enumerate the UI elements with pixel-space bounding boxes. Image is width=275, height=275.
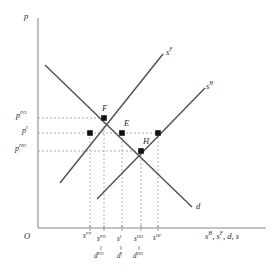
price-tick-i: pI bbox=[22, 127, 28, 135]
qty-tick-spo: sPO bbox=[97, 236, 106, 243]
price-tick-i-sup: I bbox=[26, 125, 28, 130]
x-axis-label-s3: s bbox=[236, 231, 239, 241]
price-tick-ho: pHO bbox=[15, 145, 26, 153]
origin-label: O bbox=[24, 232, 30, 241]
x-axis-label: sH, sF, d, s bbox=[205, 232, 239, 241]
point-marker-h bbox=[138, 148, 144, 154]
point-label-e: E bbox=[124, 119, 129, 128]
price-tick-po-sup: PO bbox=[20, 110, 27, 115]
qty-tick-dpo-sup: PO bbox=[98, 251, 104, 256]
point-marker-e bbox=[119, 130, 125, 136]
qty-tick-shi-sup: HI bbox=[156, 233, 161, 238]
qty-tick-sho-sup: HO bbox=[137, 234, 143, 239]
curve-label-supply-home: sH bbox=[206, 82, 213, 91]
curve-label-supply-foreign: sF bbox=[166, 48, 173, 57]
curve-label-d-base: d bbox=[196, 201, 200, 211]
qty-tick-sft-sup: FT bbox=[86, 231, 91, 236]
qty-tick-spo-sup: PO bbox=[100, 234, 106, 239]
curve-label-sh-sup: H bbox=[209, 80, 213, 86]
curve-label-demand: d bbox=[196, 202, 200, 211]
demand-curve bbox=[45, 65, 192, 207]
qty-tick-shi: sHI bbox=[153, 235, 161, 242]
qty-tick-di: dI bbox=[117, 253, 122, 260]
price-tick-po: pPO bbox=[16, 112, 27, 120]
qty-tick-dho-sup: HO bbox=[137, 251, 143, 256]
supply-curve-home bbox=[97, 88, 205, 199]
qty-tick-sft: sFT bbox=[83, 233, 91, 240]
curve-label-sf-sup: F bbox=[169, 46, 172, 52]
point-marker-f bbox=[101, 115, 107, 121]
qty-tick-dho: dHO bbox=[133, 253, 143, 260]
qty-tick-si: sI bbox=[117, 236, 121, 243]
point-label-f: F bbox=[102, 104, 107, 113]
supply-demand-figure: p O sH, sF, d, s sF sH d F E H pPO pI pH… bbox=[0, 0, 275, 275]
qty-tick-sho: sHO bbox=[134, 236, 143, 243]
point-marker-home-supply-at-pi bbox=[155, 130, 161, 136]
y-axis-label: p bbox=[24, 12, 28, 21]
qty-tick-di-sup: I bbox=[121, 251, 122, 256]
qty-tick-si-sup: I bbox=[120, 234, 121, 239]
point-label-h: H bbox=[143, 137, 149, 146]
point-marker-foreign-supply-at-pi bbox=[87, 130, 93, 136]
price-tick-ho-sup: HO bbox=[19, 143, 26, 148]
qty-tick-dpo: dPO bbox=[94, 253, 104, 260]
